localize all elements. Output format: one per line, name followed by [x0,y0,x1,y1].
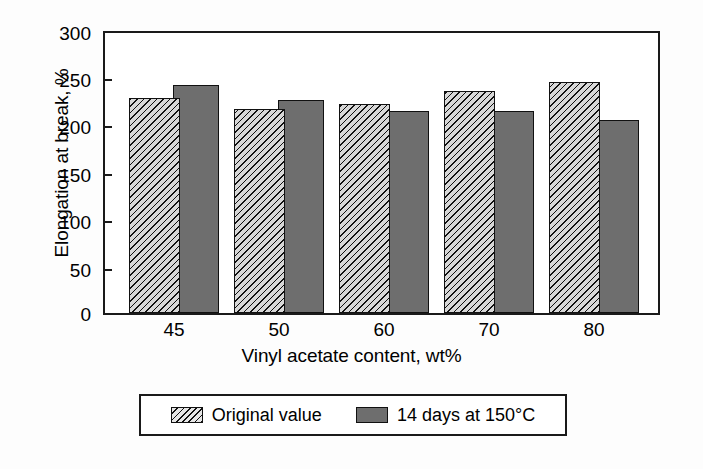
y-tick-label-50: 50 [31,261,91,280]
y-tick-label-300: 300 [31,24,91,43]
legend-entry-14-days-at-150c: 14 days at 150°C [356,405,535,426]
x-axis-title: Vinyl acetate content, wt% [0,345,703,367]
bar-70-original-value [444,91,495,313]
bar-group-70 [444,33,542,313]
x-tick-label-50: 50 [239,319,319,341]
bar-group-60 [339,33,437,313]
chart-legend: Original value 14 days at 150°C [139,394,567,436]
y-tick-label-150: 150 [31,166,91,185]
x-tick-label-60: 60 [344,319,424,341]
bar-group-50 [234,33,332,313]
bar-80-original-value [549,82,600,313]
chart-figure: Elongation at break, % 300 250 200 150 1… [0,0,703,469]
y-tick-label-0: 0 [31,305,91,324]
legend-swatch-hatched-icon [171,407,203,423]
legend-label-original-value: Original value [212,405,322,426]
bar-group-45 [129,33,227,313]
y-tick-label-100: 100 [31,213,91,232]
bar-60-original-value [339,104,390,313]
legend-label-14-days-at-150c: 14 days at 150°C [397,405,535,426]
x-tick-label-80: 80 [554,319,634,341]
bars-container [105,33,658,313]
y-tick-label-250: 250 [31,71,91,90]
legend-swatch-solid-icon [356,407,388,423]
bar-50-original-value [234,109,285,313]
x-tick-label-45: 45 [134,319,214,341]
x-tick-label-70: 70 [449,319,529,341]
bar-group-80 [549,33,647,313]
y-tick-label-200: 200 [31,118,91,137]
bar-45-original-value [129,98,180,313]
legend-entry-original-value: Original value [171,405,322,426]
